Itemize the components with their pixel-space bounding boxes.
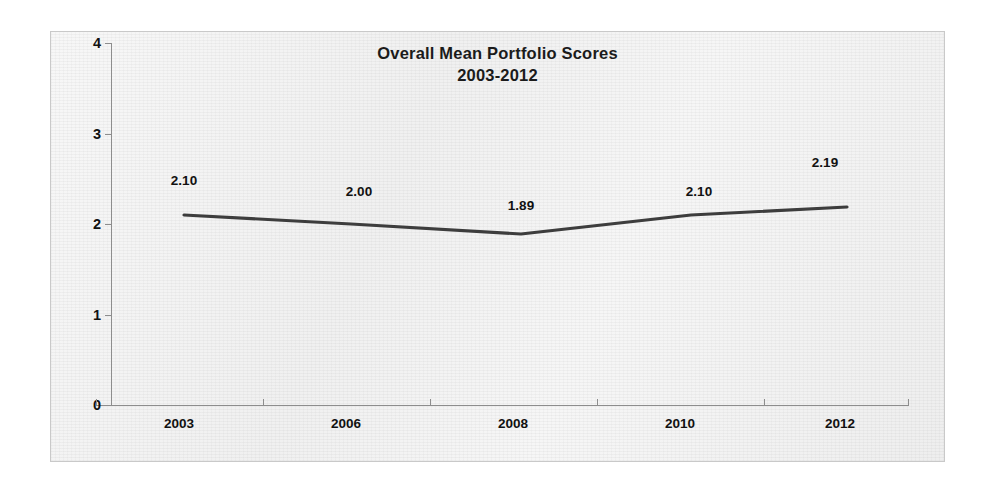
point-label-2010: 2.10: [686, 184, 712, 199]
point-label-2003: 2.10: [171, 173, 197, 188]
page-canvas: Overall Mean Portfolio Scores 2003-2012 …: [0, 0, 986, 486]
chart-frame: Overall Mean Portfolio Scores 2003-2012 …: [50, 31, 945, 462]
series-line-overall-mean: [51, 32, 944, 461]
plot-area: Overall Mean Portfolio Scores 2003-2012 …: [51, 32, 944, 461]
point-label-2006: 2.00: [346, 184, 372, 199]
point-label-2012: 2.19: [812, 155, 838, 170]
point-label-2008: 1.89: [508, 198, 534, 213]
